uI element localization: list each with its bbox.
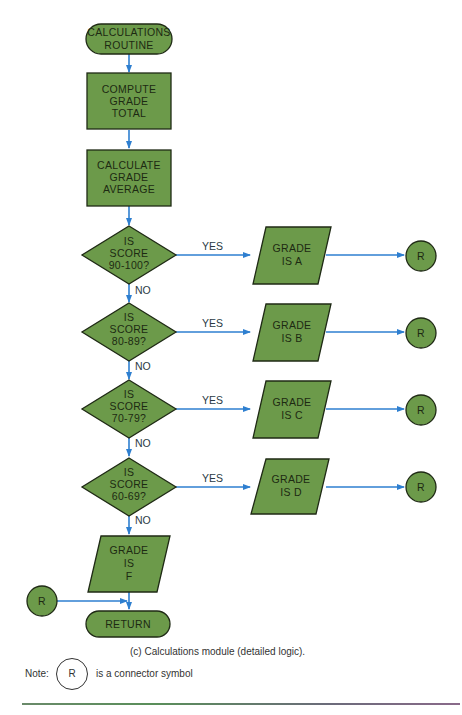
no-label-1: NO [135, 284, 151, 296]
decision-2-label-2: SCORE [110, 323, 149, 335]
entry-connector-label: R [38, 595, 46, 607]
return-label: RETURN [105, 618, 151, 630]
yes-label-3: YES [202, 394, 223, 406]
no-label-2: NO [135, 360, 151, 372]
connector-4-label: R [417, 481, 425, 493]
decision-3-label-1: IS [124, 388, 135, 400]
average-label-1: CALCULATE [97, 159, 161, 171]
connector-1-label: R [417, 250, 425, 262]
bottom-rule [22, 703, 460, 705]
decision-80-89: IS SCORE 80-89? [82, 303, 176, 361]
start-label-2: ROUTINE [104, 39, 153, 51]
grade-f-label-1: GRADE [110, 544, 149, 556]
yes-label-2: YES [202, 317, 223, 329]
average-label-3: AVERAGE [103, 183, 155, 195]
connector-3-label: R [417, 404, 425, 416]
decision-3-label-3: 70-79? [112, 412, 147, 424]
connector-r-1: R [406, 241, 436, 271]
connector-r-4: R [406, 472, 436, 502]
calculate-average-process: CALCULATE GRADE AVERAGE [87, 150, 171, 206]
compute-label-1: COMPUTE [102, 83, 157, 95]
output-grade-b: GRADE IS B [253, 304, 331, 361]
decision-2-label-1: IS [124, 311, 135, 323]
decision-1-label-2: SCORE [110, 247, 149, 259]
grade-c-label-2: IS C [281, 409, 303, 421]
average-label-2: GRADE [110, 171, 149, 183]
grade-a-label-2: IS A [282, 255, 302, 267]
decision-4-label-2: SCORE [110, 478, 149, 490]
grade-a-label-1: GRADE [273, 242, 312, 254]
return-terminal: RETURN [86, 611, 170, 637]
start-terminal: CALCULATIONS ROUTINE [86, 24, 172, 54]
grade-b-label-1: GRADE [273, 319, 312, 331]
decision-90-100: IS SCORE 90-100? [82, 226, 176, 284]
decision-1-label-3: 90-100? [109, 259, 150, 271]
compute-total-process: COMPUTE GRADE TOTAL [87, 73, 171, 129]
connector-r-2: R [406, 318, 436, 348]
compute-label-2: GRADE [110, 95, 149, 107]
note-text: is a connector symbol [96, 668, 193, 679]
output-grade-a: GRADE IS A [253, 227, 331, 284]
grade-d-label-1: GRADE [272, 473, 311, 485]
connector-r-3: R [406, 395, 436, 425]
flowchart: CALCULATIONS ROUTINE COMPUTE GRADE TOTAL… [0, 0, 462, 715]
decision-60-69: IS SCORE 60-69? [82, 458, 176, 516]
decision-3-label-2: SCORE [110, 400, 149, 412]
no-label-4: NO [135, 514, 151, 526]
output-grade-c: GRADE IS C [253, 381, 331, 438]
output-grade-f: GRADE IS F [88, 536, 170, 592]
grade-f-label-3: F [126, 570, 133, 582]
yes-label-1: YES [202, 240, 223, 252]
note-connector-symbol: R [56, 658, 88, 690]
yes-label-4: YES [202, 472, 223, 484]
decision-70-79: IS SCORE 70-79? [82, 380, 176, 438]
figure-caption: (c) Calculations module (detailed logic)… [130, 646, 305, 657]
start-label-1: CALCULATIONS [87, 26, 170, 38]
entry-connector-r: R [27, 586, 57, 616]
output-grade-d: GRADE IS D [251, 459, 329, 514]
no-label-3: NO [135, 437, 151, 449]
compute-label-3: TOTAL [112, 107, 146, 119]
grade-b-label-2: IS B [281, 332, 302, 344]
grade-f-label-2: IS [124, 557, 135, 569]
grade-c-label-1: GRADE [273, 396, 312, 408]
note-prefix: Note: [25, 668, 49, 679]
decision-4-label-1: IS [124, 466, 135, 478]
connector-2-label: R [417, 327, 425, 339]
decision-1-label-1: IS [124, 235, 135, 247]
grade-d-label-2: IS D [280, 486, 302, 498]
decision-4-label-3: 60-69? [112, 490, 147, 502]
decision-2-label-3: 80-89? [112, 335, 147, 347]
